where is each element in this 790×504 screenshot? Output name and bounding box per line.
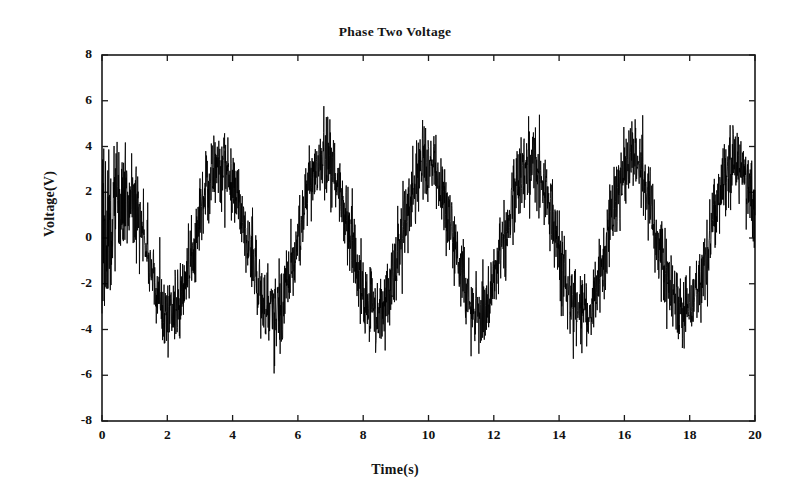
y-tick-label: 4 [46, 138, 92, 154]
y-tick-label: 8 [46, 46, 92, 62]
x-tick-label: 14 [539, 427, 579, 443]
y-tick-label: -4 [46, 321, 92, 337]
y-tick-label: -2 [46, 275, 92, 291]
chart-figure: Phase Two Voltage Voltage(V) Time(s) 864… [0, 0, 790, 504]
chart-title: Phase Two Voltage [0, 24, 790, 40]
x-tick-label: 18 [670, 427, 710, 443]
voltage-waveform-line [102, 106, 755, 373]
y-tick-label: 6 [46, 92, 92, 108]
x-tick-label: 4 [213, 427, 253, 443]
x-tick-label: 10 [409, 427, 449, 443]
x-tick-label: 0 [82, 427, 122, 443]
y-tick-label: -6 [46, 366, 92, 382]
x-tick-label: 12 [474, 427, 514, 443]
y-tick-label: 2 [46, 183, 92, 199]
x-tick-label: 16 [604, 427, 644, 443]
data-series-group [102, 106, 755, 373]
x-tick-label: 20 [735, 427, 775, 443]
y-tick-label: -8 [46, 412, 92, 428]
y-tick-label: 0 [46, 229, 92, 245]
x-axis-label: Time(s) [0, 462, 790, 478]
x-tick-label: 6 [278, 427, 318, 443]
x-tick-label: 2 [147, 427, 187, 443]
x-tick-label: 8 [343, 427, 383, 443]
